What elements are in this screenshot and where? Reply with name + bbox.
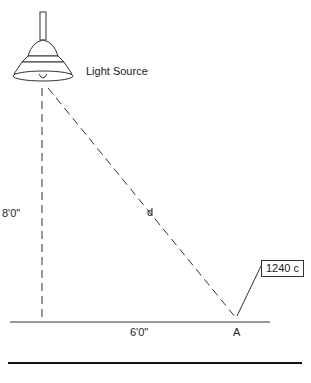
light-source-label: Light Source: [86, 65, 148, 77]
diagram-canvas: [0, 0, 311, 383]
hypotenuse-label: d: [147, 206, 153, 218]
point-a-label: A: [233, 326, 240, 338]
vertical-distance-label: 8'0": [2, 207, 20, 219]
callout-leader: [237, 266, 261, 316]
hypotenuse-dashed-line: [48, 88, 236, 318]
horizontal-distance-label: 6'0": [130, 326, 148, 338]
callout-value-box: 1240 c: [261, 260, 304, 277]
lamp-icon: [13, 12, 73, 81]
